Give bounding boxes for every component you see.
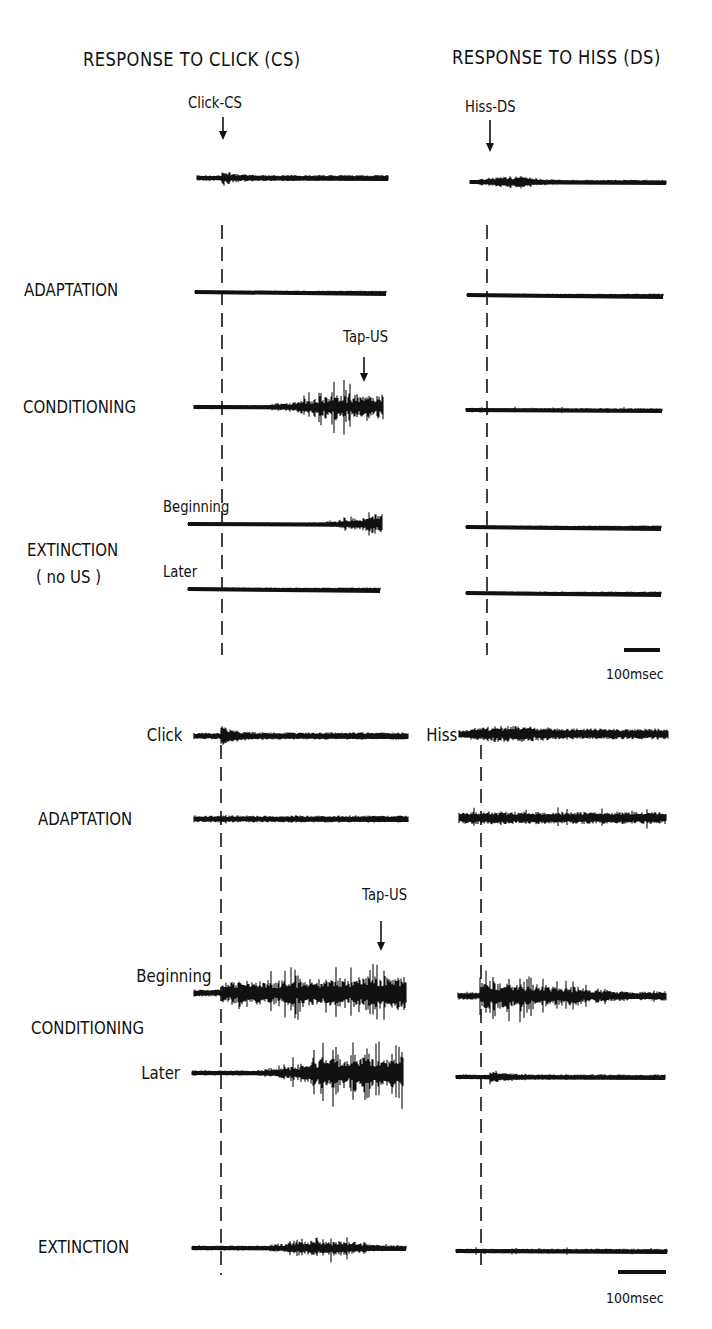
recording-traces [0,0,712,1329]
trace-signal [194,726,408,744]
trace-signal [197,172,388,186]
trace-signal [192,1237,406,1262]
trace-signal [192,1041,403,1109]
trace-signal [456,1071,665,1085]
trace-signal [195,291,386,294]
trace-signal [467,294,663,297]
arrowhead-icon [486,143,494,152]
trace-signal [458,970,666,1022]
trace-signal [459,808,666,829]
arrowhead-icon [360,373,368,382]
arrowhead-icon [377,942,385,951]
trace-signal [188,512,382,535]
trace-signal [466,526,661,529]
trace-signal [459,726,668,742]
arrowhead-icon [219,131,227,140]
trace-signal [194,964,406,1020]
trace-signal [194,815,408,824]
trace-signal [470,176,666,188]
